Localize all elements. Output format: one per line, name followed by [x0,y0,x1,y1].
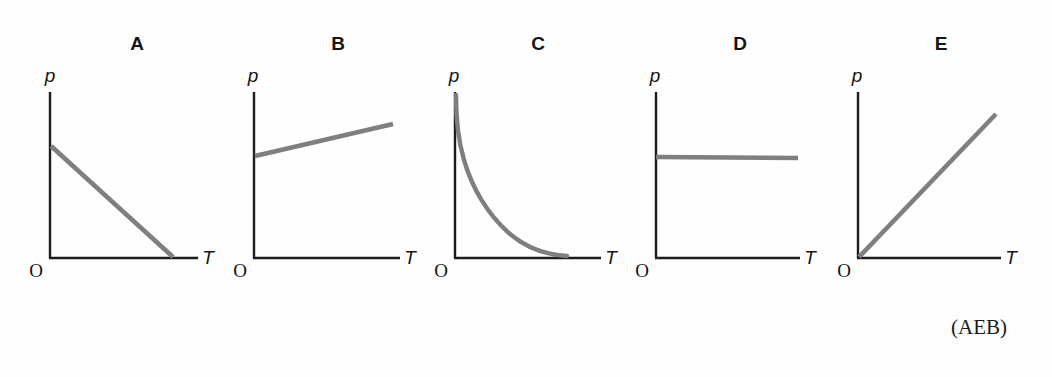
y-axis-label-b: p [247,65,259,86]
data-series-b [255,124,393,156]
x-axis-label-a: T [202,247,215,268]
origin-label-b: O [233,260,247,281]
y-axis-label-d: p [649,65,661,86]
x-axis-label-c: T [605,247,618,268]
graph-panel-d: D p T O [635,33,817,281]
y-axis-label-a: p [44,65,56,86]
x-axis-label-e: T [1005,247,1018,268]
data-series-c [456,95,567,256]
panel-letter-d: D [733,33,747,54]
origin-label-d: O [635,260,649,281]
data-series-e [859,114,996,257]
y-axis-label-c: p [448,65,460,86]
graph-panel-a: A p T O [29,33,215,281]
graph-panel-e: E p T O [837,33,1018,281]
panel-letter-b: B [331,33,345,54]
data-series-a [51,146,173,257]
source-attribution: (AEB) [951,315,1007,339]
panel-letter-c: C [531,33,545,54]
x-axis-label-d: T [804,247,817,268]
y-axis-label-e: p [851,65,863,86]
origin-label-e: O [837,260,851,281]
graph-panel-b: B p T O [233,33,417,281]
origin-label-c: O [434,260,448,281]
x-axis-label-b: T [404,247,417,268]
physics-graph-figure: A p T O B p T O C p T O [0,0,1052,377]
graph-panel-c: C p T O [434,33,618,281]
panel-letter-a: A [130,33,144,54]
graphs-svg-canvas: A p T O B p T O C p T O [0,0,1052,377]
panel-letter-e: E [935,33,948,54]
data-series-d [656,157,798,158]
origin-label-a: O [29,260,43,281]
